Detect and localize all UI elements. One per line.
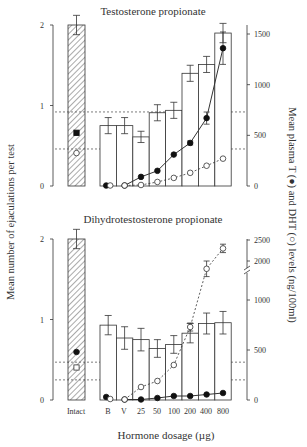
plasma-dht-marker-open xyxy=(187,324,193,330)
right-tick-label: 1500 xyxy=(254,30,270,39)
plasma-t-marker-filled xyxy=(171,393,177,399)
right-tick-label: 2000 xyxy=(254,257,270,266)
plasma-dht-marker-open xyxy=(204,163,210,169)
right-tick-label: 500 xyxy=(254,346,266,355)
right-tick-label: 500 xyxy=(254,131,266,140)
plasma-dht-marker-open xyxy=(74,150,80,156)
plasma-dht-marker-open xyxy=(107,396,113,402)
left-axis-label: Mean number of ejaculations per test xyxy=(5,144,16,300)
plasma-t-marker-filled xyxy=(187,393,193,399)
plasma-dht-marker-open xyxy=(138,182,144,188)
left-tick-label: 1 xyxy=(40,102,44,111)
left-tick-label: 0 xyxy=(40,396,44,405)
left-tick-label: 0 xyxy=(40,182,44,191)
bar-dose xyxy=(182,73,198,186)
bar-dose xyxy=(198,324,214,400)
bar-dose xyxy=(149,113,165,186)
figure: Testosterone propionate Dihydrotestoster… xyxy=(0,0,307,447)
plasma-dht-marker-open xyxy=(138,384,144,390)
right-tick-label: 0 xyxy=(254,396,258,405)
right-tick-label: 2500 xyxy=(254,236,270,245)
plasma-dht-marker-open xyxy=(155,378,161,384)
plasma-t-marker-filled xyxy=(187,140,193,146)
plasma-dht-marker-open xyxy=(220,156,226,162)
x-tick-100: 100 xyxy=(168,407,180,416)
panel-dht: 0120500100020002500 xyxy=(40,229,270,405)
chart-canvas: Testosterone propionate Dihydrotestoster… xyxy=(0,0,307,447)
bar-intact-hatched xyxy=(68,25,85,186)
plasma-t-marker-filled xyxy=(138,397,144,403)
x-tick-200: 200 xyxy=(184,407,196,416)
plasma-t-marker-filled xyxy=(220,390,226,396)
plasma-dht-marker-open xyxy=(122,183,128,189)
right-tick-label: 0 xyxy=(254,182,258,191)
panel-title-dht: Dihydrotestosterone propionate xyxy=(84,213,223,225)
bar-intact-hatched xyxy=(68,239,85,400)
plasma-dht-marker-open xyxy=(220,246,226,252)
x-tick-b: B xyxy=(105,407,110,416)
x-tick-v: V xyxy=(121,407,127,416)
bar-dose xyxy=(100,126,116,186)
x-tick-labels: Intact B V 25 50 100 200 400 800 xyxy=(67,407,229,416)
right-tick-label: 1000 xyxy=(254,81,270,90)
plasma-dht-marker-open xyxy=(187,170,193,176)
plasma-dht-marker-open xyxy=(122,397,128,403)
x-tick-400: 400 xyxy=(200,407,212,416)
plasma-dht-marker-open xyxy=(204,266,210,272)
x-tick-800: 800 xyxy=(217,407,229,416)
plasma-t-marker-filled xyxy=(155,168,161,174)
x-tick-intact: Intact xyxy=(67,407,86,416)
right-tick-label: 1000 xyxy=(254,296,270,305)
plasma-dht-marker-open xyxy=(107,183,113,189)
panel-testosterone: 012050010001500 xyxy=(40,15,270,191)
right-axis-label: Mean plasma T (●) and DHT (○) levels (ng… xyxy=(286,107,298,323)
plasma-t-marker-filled xyxy=(138,174,144,180)
panel-title-testosterone: Testosterone propionate xyxy=(100,5,205,17)
plasma-t-marker-filled xyxy=(74,349,80,355)
x-axis-label: Hormone dosage (µg) xyxy=(118,429,215,442)
plasma-dht-marker-open xyxy=(171,362,177,368)
bar-dose xyxy=(116,126,132,186)
left-tick-label: 1 xyxy=(40,316,44,325)
left-tick-label: 2 xyxy=(40,21,44,30)
plasma-t-marker-filled xyxy=(171,152,177,158)
bar-dose xyxy=(166,110,182,186)
plasma-dht-marker-open xyxy=(155,179,161,185)
plasma-t-marker-filled xyxy=(204,115,210,121)
plasma-t-marker-filled xyxy=(220,45,226,51)
plasma-t-marker-filled xyxy=(74,130,79,135)
plasma-t-marker-filled xyxy=(155,395,161,401)
plasma-dht-marker-open xyxy=(171,175,177,181)
plasma-t-marker-filled xyxy=(204,392,210,398)
plasma-dht-marker-open xyxy=(74,365,79,370)
x-tick-25: 25 xyxy=(137,407,145,416)
bar-dose xyxy=(100,325,116,400)
left-tick-label: 2 xyxy=(40,235,44,244)
x-tick-50: 50 xyxy=(153,407,161,416)
